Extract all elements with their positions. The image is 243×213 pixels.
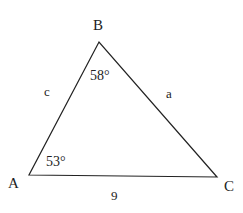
vertex-label-b: B	[93, 17, 103, 33]
side-label-b: 9	[111, 188, 118, 203]
triangle-svg: B A C c a 9 58° 53°	[0, 0, 243, 213]
vertex-label-c: C	[224, 178, 234, 194]
vertex-label-a: A	[8, 175, 19, 191]
side-label-a: a	[166, 86, 172, 101]
angle-label-b: 58°	[90, 68, 110, 83]
triangle-diagram: B A C c a 9 58° 53°	[0, 0, 243, 213]
side-label-c: c	[44, 84, 50, 99]
angle-label-a: 53°	[46, 154, 66, 169]
